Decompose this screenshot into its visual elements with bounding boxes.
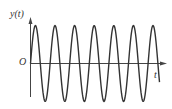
y-axis-arrow-icon [29, 17, 33, 24]
y-axis-label: y(t) [10, 9, 24, 19]
x-axis-label: t [154, 70, 157, 80]
x-axis-arrow-icon [160, 62, 167, 66]
sine-wave-chart [0, 0, 172, 109]
origin-label: O [19, 57, 26, 67]
